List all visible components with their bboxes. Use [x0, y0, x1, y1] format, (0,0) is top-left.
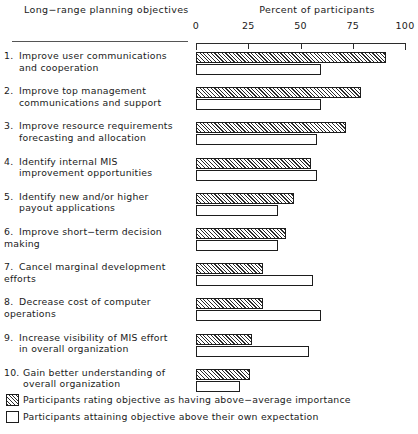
bar-importance: [196, 228, 286, 239]
bar-group: [196, 155, 405, 190]
x-tick-label: 100: [395, 20, 414, 31]
chart-legend: Participants rating objective as having …: [6, 392, 416, 426]
chart-row: 4.Identify internal MISimprovement oppor…: [0, 155, 418, 190]
category-number: 8.: [4, 296, 19, 308]
legend-item: Participants attaining objective above t…: [6, 409, 416, 424]
chart-row: 8.Decrease cost of computer operations: [0, 295, 418, 330]
bar-attainment: [196, 99, 321, 110]
category-text-line1: Identify new and/or higher: [19, 191, 149, 202]
chart-row: 2.Improve top managementcommunications a…: [0, 84, 418, 119]
bar-group: [196, 260, 405, 295]
bar-attainment: [196, 381, 240, 392]
legend-swatch-hatched-icon: [6, 394, 19, 406]
category-number: 1.: [4, 50, 19, 62]
left-column-title: Long−range planning objectives: [24, 4, 194, 15]
category-number: 9.: [4, 332, 19, 344]
category-label: 7.Cancel marginal development efforts: [4, 261, 192, 284]
category-text-line2: forecasting and allocation: [4, 132, 192, 144]
legend-label: Participants attaining objective above t…: [23, 411, 319, 422]
category-text-line1: Gain better understanding of: [23, 367, 165, 378]
category-text-line2: improvement opportunities: [4, 167, 192, 179]
category-number: 10.: [4, 367, 23, 379]
category-number: 3.: [4, 120, 19, 132]
category-text-line2: overall organization: [4, 378, 192, 390]
axis-title: Percent of participants: [232, 4, 402, 15]
category-text-line2: in overall organization: [4, 343, 192, 355]
x-tick-label: 75: [346, 20, 359, 31]
bar-importance: [196, 334, 252, 345]
category-number: 7.: [4, 261, 19, 273]
bar-importance: [196, 263, 263, 274]
bar-attainment: [196, 205, 278, 216]
category-text-line1: Improve short−term decision making: [4, 226, 162, 249]
bar-importance: [196, 369, 250, 380]
bar-attainment: [196, 310, 321, 321]
x-tick-label: 25: [242, 20, 255, 31]
category-label: 5.Identify new and/or higherpayout appli…: [4, 191, 192, 214]
category-number: 5.: [4, 191, 19, 203]
bar-group: [196, 84, 405, 119]
bar-importance: [196, 193, 294, 204]
bar-rows: 1.Improve user communicationsand coopera…: [0, 49, 418, 401]
bar-importance: [196, 122, 346, 133]
category-label: 2.Improve top managementcommunications a…: [4, 85, 192, 108]
category-text-line1: Increase visibility of MIS effort: [19, 332, 168, 343]
category-number: 6.: [4, 226, 19, 238]
bar-group: [196, 295, 405, 330]
category-text-line1: Cancel marginal development efforts: [4, 261, 166, 284]
bar-group: [196, 331, 405, 366]
x-tick-label: 50: [294, 20, 307, 31]
category-label: 9.Increase visibility of MIS effortin ov…: [4, 332, 192, 355]
bar-attainment: [196, 134, 317, 145]
chart-row: 7.Cancel marginal development efforts: [0, 260, 418, 295]
category-text-line1: Identify internal MIS: [19, 156, 118, 167]
bar-importance: [196, 158, 311, 169]
bar-group: [196, 119, 405, 154]
bar-importance: [196, 52, 386, 63]
legend-swatch-open-icon: [6, 411, 19, 423]
legend-label: Participants rating objective as having …: [23, 394, 351, 405]
bar-attainment: [196, 275, 313, 286]
category-label: 3.Improve resource requirementsforecasti…: [4, 120, 192, 143]
bar-attainment: [196, 346, 309, 357]
bar-attainment: [196, 240, 278, 251]
category-label: 1.Improve user communicationsand coopera…: [4, 50, 192, 73]
category-text-line2: payout applications: [4, 202, 192, 214]
bar-group: [196, 225, 405, 260]
x-tick-label: 0: [193, 20, 199, 31]
chart-row: 3.Improve resource requirementsforecasti…: [0, 119, 418, 154]
bar-importance: [196, 87, 361, 98]
chart-row: 1.Improve user communicationsand coopera…: [0, 49, 418, 84]
category-label: 10.Gain better understanding ofoverall o…: [4, 367, 192, 390]
category-label: 4.Identify internal MISimprovement oppor…: [4, 156, 192, 179]
category-label: 8.Decrease cost of computer operations: [4, 296, 192, 319]
category-text-line2: communications and support: [4, 97, 192, 109]
bar-attainment: [196, 64, 321, 75]
chart-container: Long−range planning objectives Percent o…: [0, 0, 418, 434]
category-text-line2: and cooperation: [4, 62, 192, 74]
category-label: 6.Improve short−term decision making: [4, 226, 192, 249]
bar-importance: [196, 298, 263, 309]
bar-group: [196, 49, 405, 84]
chart-row: 6.Improve short−term decision making: [0, 225, 418, 260]
bar-attainment: [196, 170, 317, 181]
category-text-line1: Improve top management: [19, 85, 146, 96]
category-text-line1: Improve resource requirements: [19, 120, 173, 131]
category-text-line1: Decrease cost of computer operations: [4, 296, 151, 319]
category-text-line1: Improve user communications: [19, 50, 167, 61]
category-number: 2.: [4, 85, 19, 97]
header-divider-rule: [12, 41, 188, 42]
category-number: 4.: [4, 156, 19, 168]
chart-row: 9.Increase visibility of MIS effortin ov…: [0, 331, 418, 366]
chart-row: 5.Identify new and/or higherpayout appli…: [0, 190, 418, 225]
bar-group: [196, 190, 405, 225]
legend-item: Participants rating objective as having …: [6, 392, 416, 407]
